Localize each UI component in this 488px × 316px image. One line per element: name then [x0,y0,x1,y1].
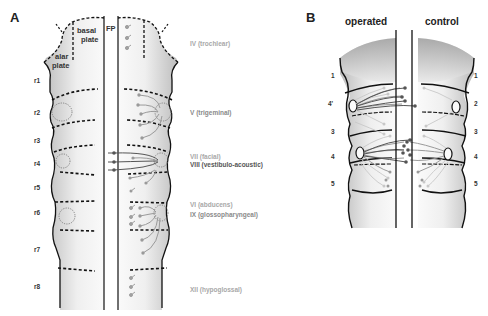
rhombomere-label-r2: r2 [34,109,40,116]
rhombomere-label-r7: r7 [34,246,40,253]
right-half-tube [118,18,178,311]
panel-b-letter: B [306,10,315,25]
column-title-control: control [425,16,459,27]
nerve-label-glossopharyngeal: IX (glossopharyngeal) [190,211,258,218]
nerve-label-abducens: VI (abducens) [190,201,233,208]
nerve-label-facial: VII (facial) [190,153,221,160]
nerve-label-vestibulo-acoustic: VIII (vestibulo-acoustic) [190,161,263,168]
nerve-label-hypoglossal: XII (hypoglossal) [190,286,242,293]
control-segment-label-4: 4 [474,153,478,160]
nerve-label-trochlear: IV (trochlear) [190,40,230,47]
operated-segment-label-4: 4 [331,153,335,160]
rhombomere-label-r4: r4 [34,160,40,167]
panel-a-letter: A [10,10,19,25]
operated-segment-label-3: 3 [331,128,335,135]
column-title-operated: operated [345,16,387,27]
control-segment-label-2: 2 [474,100,478,107]
rhombomere-label-r5: r5 [34,184,40,191]
rhombomere-label-r8: r8 [34,283,40,290]
basal-plate-label-1: basal [77,26,96,35]
diagram-canvas [0,0,488,316]
rhombomere-label-r3: r3 [34,137,40,144]
control-segment-label-5: 5 [474,180,478,187]
basal-plate-label-2: plate [81,35,99,44]
floor-plate-label: FP [106,24,116,33]
alar-plate-label-2: plate [52,61,70,70]
operated-segment-label-1: 1 [331,72,335,79]
operated-segment-label-5: 5 [331,180,335,187]
control-segment-label-3: 3 [474,128,478,135]
control-segment-label-1: 1 [474,72,478,79]
panel-b-hindbrain [340,30,474,228]
alar-plate-label-1: alar [55,52,68,61]
operated-segment-label-4-prime: 4' [328,100,333,107]
nerve-label-trigeminal: V (trigeminal) [190,109,232,116]
rhombomere-label-r1: r1 [34,77,40,84]
rhombomere-label-r6: r6 [34,209,40,216]
